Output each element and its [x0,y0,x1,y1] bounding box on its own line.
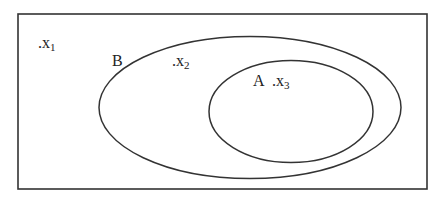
set-b-label: B [112,52,123,69]
set-a-ellipse [209,61,373,163]
venn-diagram: B A .x1 .x2 .x3 [0,0,444,197]
set-b-ellipse [99,37,401,179]
element-x3: .x3 [272,72,290,91]
universal-set-rectangle [18,14,427,189]
set-a-label: A [253,72,265,89]
element-x1: .x1 [38,34,56,53]
element-x2: .x2 [172,52,190,71]
